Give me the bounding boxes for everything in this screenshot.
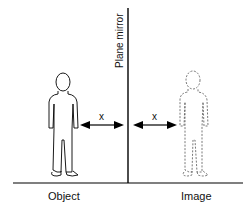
distance-label-right: x <box>152 111 157 122</box>
image-figure <box>180 71 208 176</box>
mirror-label: Plane mirror <box>114 14 125 68</box>
distance-arrow-left <box>80 121 124 129</box>
plane-mirror-diagram <box>0 0 252 211</box>
distance-label-left: x <box>99 111 104 122</box>
object-figure <box>49 73 78 176</box>
distance-arrow-right <box>133 121 177 129</box>
object-label: Object <box>48 190 80 202</box>
image-label: Image <box>181 190 212 202</box>
